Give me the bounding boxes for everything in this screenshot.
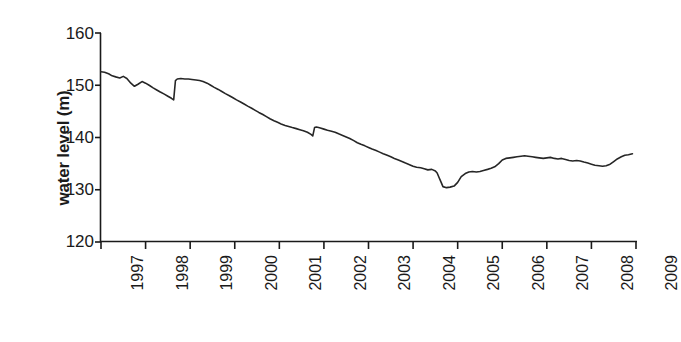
- x-tick-marks: [101, 242, 636, 249]
- water-level-series-line: [101, 72, 632, 188]
- axis-spines: [100, 33, 637, 242]
